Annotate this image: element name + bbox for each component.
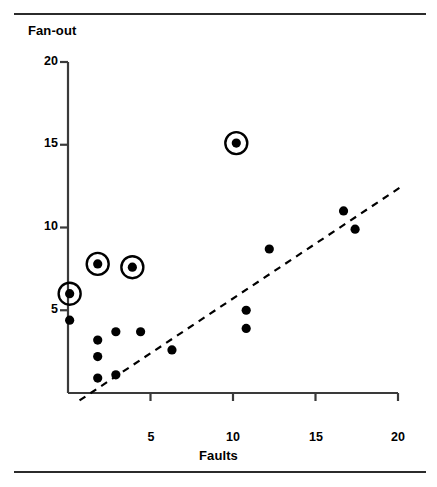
data-point (339, 206, 348, 215)
data-point (242, 324, 251, 333)
data-point (111, 327, 120, 336)
data-point (65, 316, 74, 325)
data-point (265, 244, 274, 253)
trend-line-group (80, 188, 400, 401)
data-point (93, 374, 102, 383)
data-point (128, 263, 137, 272)
scatter-plot-canvas (0, 0, 437, 487)
trend-line (80, 188, 400, 401)
figure-container: Fan-out Faults 20 15 10 5 5 10 15 20 (0, 0, 437, 487)
data-point (93, 259, 102, 268)
data-point (242, 306, 251, 315)
data-point (136, 327, 145, 336)
axes-group (60, 62, 398, 401)
data-point (351, 225, 360, 234)
data-point (65, 289, 74, 298)
data-points-group (59, 132, 360, 383)
data-point (93, 335, 102, 344)
data-point (232, 138, 241, 147)
data-point (167, 345, 176, 354)
data-point (93, 352, 102, 361)
data-point (111, 370, 120, 379)
